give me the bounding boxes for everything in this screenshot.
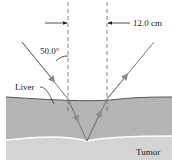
ultrasound-diagram: 50.0° 12.0 cm Liver Tumor (0, 0, 172, 160)
emerging-ray-arrow-icon (107, 76, 126, 99)
angle-label: 50.0° (40, 46, 60, 56)
tumor-label: Tumor (136, 147, 160, 157)
width-label: 12.0 cm (133, 18, 162, 28)
angle-arc (56, 56, 68, 61)
liver-label: Liver (15, 82, 35, 92)
